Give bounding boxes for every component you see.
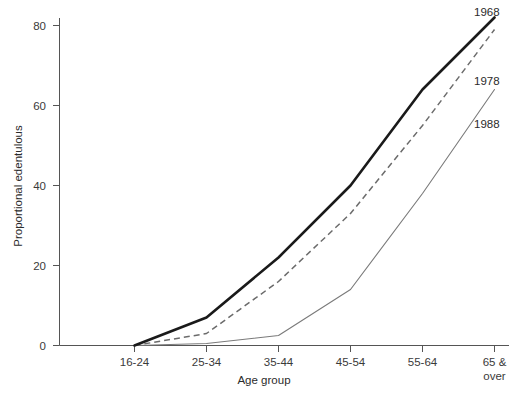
y-tick-label-40: 40 (33, 180, 46, 192)
series-line-1978 (135, 30, 495, 346)
series-line-1968 (135, 18, 495, 346)
chart-container: 80 60 40 20 0 Proportional edentulous 16… (0, 0, 517, 393)
x-tick-label-25-34: 25-34 (192, 356, 222, 368)
y-tick-label-0: 0 (40, 340, 46, 352)
y-tick-label-60: 60 (33, 100, 46, 112)
x-tick-label-55-64: 55-64 (408, 356, 438, 368)
y-tick-label-80: 80 (33, 20, 46, 32)
series-line-1988 (135, 90, 495, 346)
x-tick-label-16-24: 16-24 (120, 356, 150, 368)
y-axis-title: Proportional edentulous (12, 125, 24, 247)
x-tick-label-65-over-line2: over (483, 370, 506, 382)
x-axis-title: Age group (237, 374, 290, 386)
series-label-1978: 1978 (474, 75, 500, 87)
series-label-1988: 1988 (474, 118, 500, 130)
y-tick-label-20: 20 (33, 260, 46, 272)
x-tick-label-35-44: 35-44 (264, 356, 294, 368)
x-tick-label-65-over-line1: 65 & (483, 356, 507, 368)
series-label-1968: 1968 (474, 6, 500, 18)
x-tick-label-45-54: 45-54 (336, 356, 366, 368)
line-chart-plot: 80 60 40 20 0 Proportional edentulous 16… (0, 0, 517, 393)
